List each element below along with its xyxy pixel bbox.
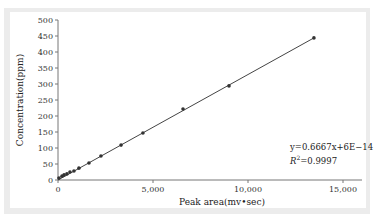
y-tick-label: 100: [38, 144, 53, 153]
x-tick-label: 5,000: [142, 185, 165, 194]
data-points: [57, 36, 316, 180]
data-point: [65, 172, 69, 176]
data-point: [181, 107, 185, 111]
y-tick-label: 500: [38, 16, 53, 25]
data-point: [57, 176, 61, 180]
data-point: [227, 84, 231, 88]
y-tick-label: 200: [38, 112, 53, 121]
y-tick-label: 250: [38, 96, 53, 105]
data-point: [99, 154, 103, 158]
x-tick-label: 0: [55, 185, 60, 194]
data-point: [87, 161, 91, 165]
scatter-chart: 05010015020025030035040045050005,00010,0…: [0, 0, 377, 221]
y-tick-label: 0: [48, 176, 53, 185]
data-point: [119, 143, 123, 147]
y-axis-label: Concentration(ppm): [15, 54, 25, 146]
x-tick-label: 15,000: [329, 185, 357, 194]
data-point: [77, 166, 81, 170]
data-point: [312, 36, 316, 40]
data-point: [141, 131, 145, 135]
y-tick-label: 300: [38, 80, 53, 89]
x-axis-label: Peak area(mv•sec): [179, 197, 265, 207]
y-tick-label: 400: [38, 48, 53, 57]
r-squared: R2=0.9997: [289, 154, 337, 166]
tick-labels: 05010015020025030035040045050005,00010,0…: [38, 16, 357, 194]
y-tick-label: 50: [43, 160, 53, 169]
x-tick-label: 10,000: [234, 185, 262, 194]
y-tick-label: 150: [38, 128, 53, 137]
trend-line: [58, 38, 314, 180]
data-point: [68, 170, 72, 174]
y-tick-label: 450: [38, 32, 53, 41]
trendline: [58, 38, 314, 180]
data-point: [72, 169, 76, 173]
y-tick-label: 350: [38, 64, 53, 73]
regression-equation: y=0.6667x+6E−14: [289, 142, 373, 152]
